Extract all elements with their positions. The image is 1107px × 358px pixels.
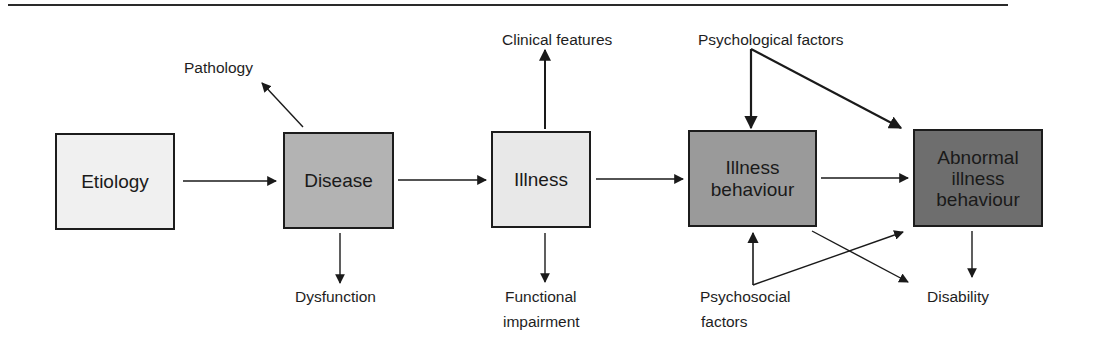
label-dysfunction: Dysfunction (295, 284, 376, 309)
label-functional-impairment-line2: impairment (503, 309, 580, 334)
box-illness-behaviour-line2: behaviour (711, 179, 794, 201)
box-abnormal-illness-behaviour: Abnormal illness behaviour (913, 129, 1043, 227)
label-psychosocial-factors-line2: factors (701, 309, 748, 334)
box-illness-behaviour: Illness behaviour (688, 130, 817, 227)
label-clinical-features: Clinical features (502, 27, 612, 52)
box-etiology-label: Etiology (81, 171, 149, 193)
box-illness-label: Illness (514, 169, 568, 191)
box-abnormal-line2: illness (952, 168, 1005, 189)
box-etiology: Etiology (55, 133, 175, 230)
label-psychological-factors: Psychological factors (698, 27, 844, 52)
box-abnormal-line3: behaviour (936, 189, 1019, 210)
box-illness: Illness (491, 131, 591, 228)
box-disease-label: Disease (304, 170, 373, 192)
arrow-disease-pathology (262, 83, 303, 127)
box-disease: Disease (283, 132, 394, 229)
arrow-illness-behaviour-disability (812, 231, 908, 282)
box-illness-behaviour-line1: Illness (726, 157, 780, 179)
arrow-psychological-abnormal (751, 49, 901, 128)
box-abnormal-line1: Abnormal (937, 147, 1018, 168)
label-disability: Disability (927, 284, 989, 309)
label-pathology: Pathology (184, 55, 253, 80)
label-functional-impairment-line1: Functional (505, 284, 577, 309)
label-psychosocial-factors-line1: Psychosocial (700, 284, 790, 309)
